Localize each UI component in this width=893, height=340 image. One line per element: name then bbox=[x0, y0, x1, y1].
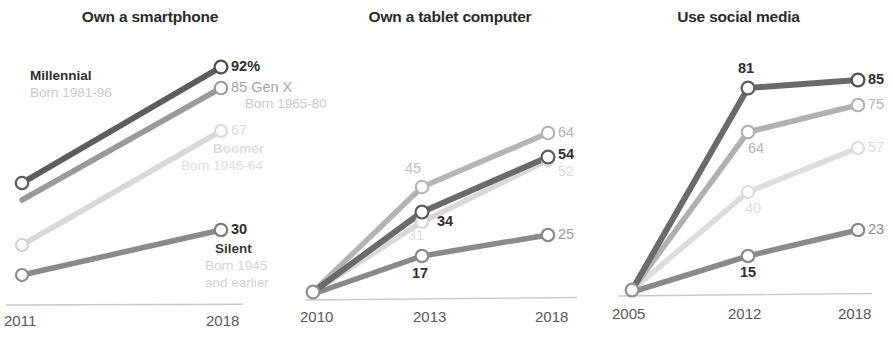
value-label-genx-2018: 64 bbox=[558, 124, 574, 141]
x-axis-line bbox=[618, 294, 872, 297]
value-label-genx-2012: 64 bbox=[748, 140, 764, 157]
xtick-2010: 2010 bbox=[300, 308, 333, 325]
series-note-silent: Silent Born 1945 and earlier bbox=[215, 241, 269, 292]
value-label-boomer-2018: 57 bbox=[868, 139, 884, 156]
series-note-millennial: Millennial Born 1981-96 bbox=[30, 68, 112, 102]
marker-genx-2012 bbox=[742, 126, 754, 138]
value-label-millennial-2013: 34 bbox=[437, 213, 453, 230]
panel3-plot bbox=[600, 0, 893, 340]
marker-origin-2010 bbox=[307, 286, 320, 299]
line-boomer bbox=[313, 160, 548, 292]
xtick-2018: 2018 bbox=[206, 312, 239, 329]
marker-boomer-2018 bbox=[852, 142, 864, 154]
xtick-2018: 2018 bbox=[535, 308, 568, 325]
marker-silent-2018 bbox=[852, 224, 864, 236]
value-label-genx-2013: 45 bbox=[405, 160, 421, 177]
marker-genx-2018 bbox=[215, 82, 227, 94]
value-label-boomer-2013: 31 bbox=[408, 227, 424, 244]
line-genx bbox=[22, 88, 221, 200]
panel-own-a-tablet-computer: Own a tablet computer 45 bbox=[300, 0, 600, 340]
marker-silent-2011 bbox=[16, 269, 28, 281]
marker-millennial-2013 bbox=[416, 206, 429, 219]
series-born-millennial: Born 1981-96 bbox=[30, 85, 112, 102]
x-axis-line bbox=[6, 304, 243, 305]
series-note-boomer: Boomer Born 1946-64 bbox=[213, 141, 264, 175]
marker-genx-2013 bbox=[416, 181, 428, 193]
value-label-millennial-2018: 54 bbox=[558, 146, 574, 163]
line-silent bbox=[22, 230, 221, 275]
value-label-genx-2018: 75 bbox=[868, 96, 884, 113]
marker-silent-2013 bbox=[416, 250, 428, 262]
series-name-millennial: Millennial bbox=[30, 68, 112, 85]
marker-millennial-2012 bbox=[742, 82, 755, 95]
marker-silent-2018 bbox=[215, 224, 227, 236]
marker-boomer-2011 bbox=[16, 239, 28, 251]
series-born-boomer: Born 1946-64 bbox=[181, 158, 264, 175]
value-label-silent-2018: 23 bbox=[868, 221, 884, 238]
value-label-silent: 30 bbox=[231, 221, 247, 238]
series-name-boomer: Boomer bbox=[213, 141, 264, 158]
panel2-plot bbox=[300, 0, 600, 340]
marker-millennial-2018 bbox=[215, 61, 228, 74]
marker-millennial-2011 bbox=[16, 177, 28, 189]
xtick-2012: 2012 bbox=[728, 305, 761, 322]
value-label-millennial-2018: 85 bbox=[868, 71, 884, 88]
marker-genx-2018 bbox=[852, 99, 864, 111]
series-born-silent-line2: and earlier bbox=[205, 275, 269, 292]
value-label-millennial-2012: 81 bbox=[738, 60, 754, 77]
series-born-silent-line1: Born 1945 bbox=[205, 258, 269, 275]
marker-boomer-2012 bbox=[742, 186, 754, 198]
value-label-boomer: 67 bbox=[231, 122, 247, 139]
xtick-2013: 2013 bbox=[413, 308, 446, 325]
xtick-2011: 2011 bbox=[4, 312, 36, 329]
marker-millennial-2018 bbox=[852, 74, 865, 87]
value-label-boomer-2018: 52 bbox=[558, 163, 574, 180]
value-label-silent-2018: 25 bbox=[558, 226, 574, 243]
panel-own-a-smartphone: Own a smartphone 92% 85 Gen X 67 bbox=[0, 0, 300, 340]
marker-genx-2018 bbox=[542, 127, 554, 139]
xtick-2005: 2005 bbox=[612, 305, 645, 322]
value-label-genx: 85 Gen X bbox=[231, 79, 292, 96]
marker-silent-2018 bbox=[542, 229, 554, 241]
marker-boomer-2018 bbox=[215, 125, 227, 137]
value-label-millennial: 92% bbox=[231, 58, 260, 75]
marker-origin-2005 bbox=[626, 284, 639, 297]
value-label-silent-2013: 17 bbox=[412, 265, 428, 282]
panel-use-social-media: Use social media 81 64 bbox=[600, 0, 893, 340]
value-label-boomer-2012: 40 bbox=[745, 200, 761, 217]
marker-millennial-2018 bbox=[542, 151, 555, 164]
line-boomer bbox=[22, 131, 221, 245]
x-axis-line bbox=[305, 298, 577, 301]
small-multiples-chart: Own a smartphone 92% 85 Gen X 67 bbox=[0, 0, 893, 340]
marker-silent-2012 bbox=[742, 250, 754, 262]
value-label-silent-2012: 15 bbox=[740, 264, 756, 281]
series-name-silent: Silent bbox=[215, 241, 269, 258]
xtick-2018: 2018 bbox=[838, 305, 871, 322]
